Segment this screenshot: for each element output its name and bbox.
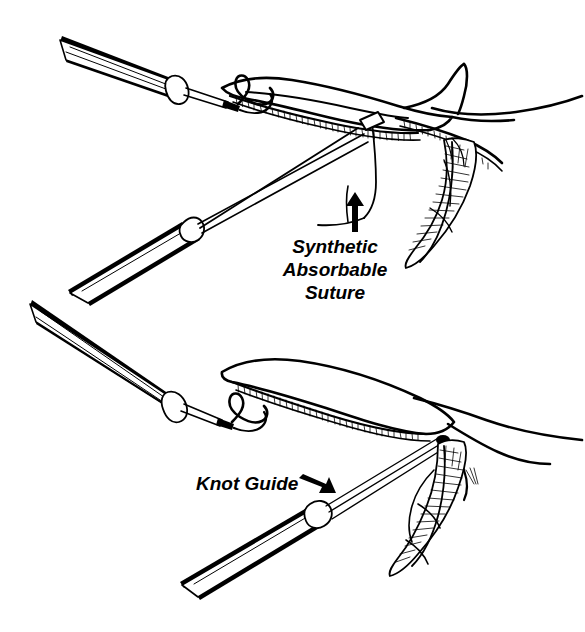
figure-root: Synthetic Absorbable Suture [0, 0, 585, 632]
label-line-absorbable: Absorbable [282, 259, 388, 280]
label-line-knot-guide: Knot Guide [196, 473, 299, 494]
label-line-synthetic: Synthetic [292, 236, 378, 257]
knot-guide-label: Knot Guide [196, 473, 299, 494]
label-line-suture: Suture [305, 282, 366, 303]
surgical-illustration: Synthetic Absorbable Suture [0, 0, 585, 632]
